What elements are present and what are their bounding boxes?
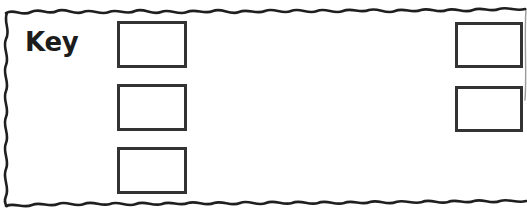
border-top-wave	[6, 8, 525, 13]
panel-wavy-border	[0, 0, 527, 212]
key-box-1[interactable]	[117, 21, 187, 68]
key-box-3[interactable]	[117, 147, 187, 194]
border-bottom-wave	[6, 200, 526, 206]
border-right-edge	[525, 9, 526, 100]
key-box-5[interactable]	[455, 86, 523, 132]
border-left-wave	[5, 13, 8, 206]
key-box-4[interactable]	[455, 22, 523, 68]
key-label: Key	[25, 29, 78, 55]
key-box-2[interactable]	[117, 84, 187, 131]
key-legend-panel: Key	[0, 0, 527, 212]
